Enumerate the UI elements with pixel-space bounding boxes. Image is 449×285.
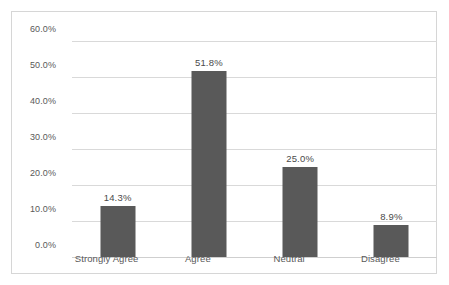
y-tick-label: 20.0% <box>12 168 56 178</box>
bar-value-label: 51.8% <box>195 57 223 68</box>
bar-slot: 51.8% <box>163 41 254 257</box>
bar-slot: 25.0% <box>255 41 346 257</box>
bar-value-label: 25.0% <box>286 153 314 164</box>
bar-slot: 8.9% <box>346 41 437 257</box>
bar-slot: 14.3% <box>72 41 163 257</box>
bar-chart-figure: 0.0%10.0%20.0%30.0%40.0%50.0%60.0% 14.3%… <box>0 0 449 285</box>
bar[interactable] <box>100 206 135 257</box>
x-tick-label: Neutral <box>244 253 335 264</box>
y-tick-label: 0.0% <box>12 240 56 250</box>
bar[interactable] <box>283 167 318 257</box>
bar-value-label: 8.9% <box>380 211 402 222</box>
bar[interactable] <box>191 71 226 257</box>
bar-value-label: 14.3% <box>104 192 132 203</box>
y-tick-label: 60.0% <box>12 24 56 34</box>
y-tick-label: 30.0% <box>12 132 56 142</box>
y-tick-label: 40.0% <box>12 96 56 106</box>
x-tick-label: Disagree <box>335 253 426 264</box>
plot-area: 14.3%51.8%25.0%8.9% <box>72 41 437 257</box>
chart-frame: 0.0%10.0%20.0%30.0%40.0%50.0%60.0% 14.3%… <box>11 11 437 274</box>
y-tick-label: 10.0% <box>12 204 56 214</box>
x-tick-label: Strongly Agree <box>61 253 152 264</box>
y-tick-label: 50.0% <box>12 60 56 70</box>
x-tick-label: Agree <box>152 253 243 264</box>
